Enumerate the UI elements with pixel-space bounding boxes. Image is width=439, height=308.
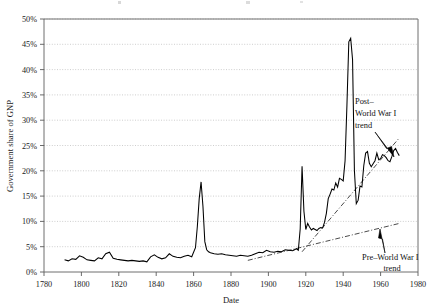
annotation-post-wwi-arrow [375, 132, 394, 157]
data-series-group [65, 38, 400, 262]
x-tick-label-1820: 1820 [111, 280, 127, 289]
series-line-0 [65, 38, 400, 262]
chart-figure: 0%5%10%15%20%25%30%35%40%45%50% 17801800… [0, 0, 439, 308]
x-tick-label-1940: 1940 [335, 280, 351, 289]
y-axis-ticks [40, 19, 44, 272]
y-tick-label-25%: 25% [22, 142, 37, 151]
y-tick-label-0%: 0% [26, 268, 37, 277]
x-tick-label-1860: 1860 [185, 280, 201, 289]
annotation-pre-wwi-line1: Pre–World War I [362, 253, 419, 262]
x-tick-label-1780: 1780 [36, 280, 52, 289]
trend-line-1 [302, 138, 399, 252]
y-tick-label-40%: 40% [22, 66, 37, 75]
y-tick-label-20%: 20% [22, 167, 37, 176]
x-axis-tick-labels: 1780180018201840186018801900192019401960… [36, 280, 426, 289]
clipped-title-band [0, 0, 439, 9]
y-tick-label-15%: 15% [22, 192, 37, 201]
gridlines [44, 19, 418, 247]
x-tick-label-1840: 1840 [148, 280, 164, 289]
y-tick-label-10%: 10% [22, 217, 37, 226]
x-axis-title: Date [223, 295, 239, 305]
x-tick-label-1920: 1920 [298, 280, 314, 289]
annotation-pre-wwi-arrow [379, 229, 386, 253]
annotation-post-wwi-line1: Post– [355, 97, 374, 106]
x-tick-label-1880: 1880 [223, 280, 239, 289]
annotation-post-wwi: Post– World War I trend [355, 97, 396, 157]
annotation-post-wwi-line2: World War I [355, 109, 396, 118]
x-tick-label-1980: 1980 [410, 280, 426, 289]
y-axis-tick-labels: 0%5%10%15%20%25%30%35%40%45%50% [22, 15, 37, 277]
y-tick-label-5%: 5% [26, 243, 37, 252]
annotation-pre-wwi: Pre–World War I trend [362, 229, 419, 273]
y-tick-label-50%: 50% [22, 15, 37, 24]
annotation-post-wwi-line3: trend [355, 121, 373, 130]
x-axis-ticks [44, 272, 418, 276]
annotation-pre-wwi-line2: trend [383, 264, 401, 273]
x-tick-label-1960: 1960 [372, 280, 388, 289]
y-tick-label-45%: 45% [22, 40, 37, 49]
y-axis-title: Government share of GNP [5, 100, 15, 192]
x-tick-label-1800: 1800 [73, 280, 89, 289]
y-tick-label-30%: 30% [22, 116, 37, 125]
x-tick-label-1900: 1900 [260, 280, 276, 289]
y-tick-label-35%: 35% [22, 91, 37, 100]
government-share-of-gnp-chart: 0%5%10%15%20%25%30%35%40%45%50% 17801800… [0, 0, 439, 308]
